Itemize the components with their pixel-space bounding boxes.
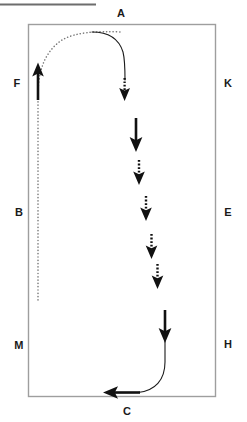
dotted-entry-path (38, 32, 122, 300)
arrow-up-f (32, 63, 44, 101)
marker-b: B (15, 207, 23, 218)
arena-outline (29, 25, 216, 397)
arrow-down-dotted-2 (133, 160, 145, 185)
diagram-canvas: A K E H C M B F (0, 0, 247, 422)
arrow-down-dotted-5 (152, 264, 164, 289)
solid-centre-path (92, 32, 125, 80)
arrow-down-solid-1 (130, 118, 143, 152)
marker-e: E (224, 207, 232, 218)
marker-h: H (224, 339, 232, 350)
arrow-down-dotted-1 (119, 78, 130, 101)
marker-m: M (14, 340, 23, 351)
marker-a: A (117, 8, 125, 19)
marker-c: C (123, 406, 131, 417)
arrow-down-dotted-3 (140, 196, 152, 221)
marker-k: K (224, 78, 232, 89)
arena-diagram (0, 0, 247, 422)
arrow-down-dotted-4 (146, 234, 158, 259)
marker-f: F (14, 78, 21, 89)
solid-exit-path (112, 336, 165, 393)
